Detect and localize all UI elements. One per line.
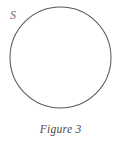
set-diagram-svg [0, 0, 121, 115]
figure-caption-label: Figure [40, 123, 73, 135]
set-label-s: S [10, 8, 16, 22]
diagram-area: S [0, 0, 121, 115]
figure-container: S Figure 3 [0, 0, 121, 141]
set-circle [10, 7, 111, 108]
figure-caption: Figure 3 [0, 122, 121, 137]
figure-caption-number: 3 [76, 123, 82, 135]
